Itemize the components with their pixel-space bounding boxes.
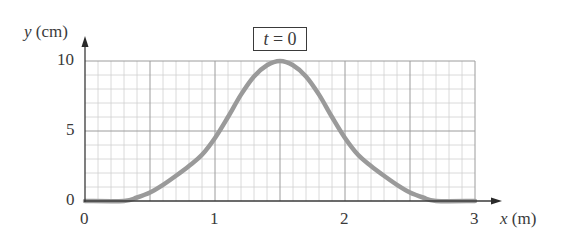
- y-axis-arrow-icon: [82, 36, 89, 47]
- grid-major: [85, 61, 475, 201]
- y-axis-var: y: [24, 22, 32, 41]
- time-value: = 0: [268, 29, 296, 49]
- x-tick-2: 2: [340, 209, 349, 229]
- y-tick-10: 10: [57, 50, 74, 70]
- x-axis-arrow-icon: [491, 198, 502, 205]
- x-tick-1: 1: [210, 209, 219, 229]
- y-axis-label: y (cm): [24, 22, 68, 42]
- x-axis-unit: (m): [512, 209, 537, 228]
- x-tick-3: 3: [470, 209, 479, 229]
- x-axis-label: x (m): [500, 209, 536, 229]
- x-tick-0: 0: [80, 209, 89, 229]
- y-tick-5: 5: [66, 120, 75, 140]
- x-axis-var: x: [500, 209, 508, 228]
- y-tick-0: 0: [66, 190, 75, 210]
- y-axis-unit: (cm): [36, 22, 68, 41]
- time-label-box: t = 0: [253, 27, 307, 51]
